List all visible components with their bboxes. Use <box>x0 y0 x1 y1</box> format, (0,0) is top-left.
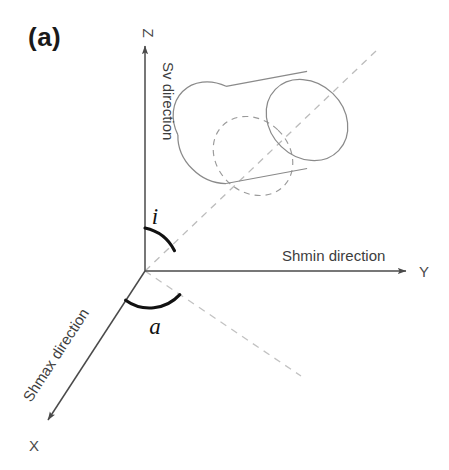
cylinder-hidden-cap-ellipse <box>197 100 309 212</box>
axis-tip-label-y: Y <box>419 263 429 280</box>
borehole-axis-dashed-line <box>145 51 376 271</box>
axis-tip-label-x: X <box>29 437 39 454</box>
axis-caption-sv-direction: Sv direction <box>160 62 177 140</box>
axis-labels: Z Sv direction Y Shmin direction X Shmax… <box>19 28 429 454</box>
cylinder-near-cap-arc-lower <box>178 135 226 184</box>
angle-label-inclination: i <box>152 204 158 229</box>
angle-label-azimuth: a <box>149 314 161 339</box>
figure-container: (a) <box>0 0 449 470</box>
cylinder-side-wall-upper <box>226 71 307 86</box>
horizontal-projection-dashed-line <box>145 271 301 376</box>
borehole-orientation-diagram: Z Sv direction Y Shmin direction X Shmax… <box>0 0 449 470</box>
cylinder-near-cap-arc <box>173 82 226 135</box>
axis-lines <box>48 46 406 420</box>
axis-tip-label-z: Z <box>140 28 157 37</box>
borehole-cylinder <box>173 63 364 212</box>
angle-arcs <box>126 228 180 308</box>
axis-caption-shmax-direction: Shmax direction <box>19 305 92 404</box>
cylinder-far-cap-ellipse <box>250 63 365 177</box>
cylinder-side-wall-lower <box>226 169 307 184</box>
angle-arc-inclination <box>145 228 175 251</box>
axis-caption-shmin-direction: Shmin direction <box>282 247 385 264</box>
construction-lines <box>145 51 376 376</box>
angle-arc-azimuth <box>126 295 180 308</box>
